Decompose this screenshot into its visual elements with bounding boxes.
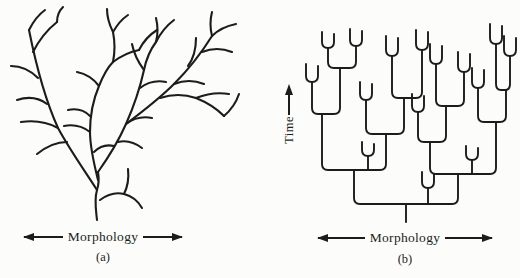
morphology-axis-b: Morphology (318, 231, 492, 245)
tree-a-drawing (5, 2, 255, 228)
time-axis-label: Time (282, 116, 297, 144)
arrowhead-right-icon (482, 234, 493, 242)
axis-line-right (143, 236, 182, 238)
time-axis: Time (278, 84, 300, 154)
morphology-axis-label-b: Morphology (365, 231, 446, 245)
arrowhead-left-icon (23, 233, 34, 241)
arrowhead-right-icon (172, 233, 183, 241)
panel-b-caption: (b) (318, 252, 492, 267)
tree-b-drawing (300, 2, 518, 230)
arrowhead-left-icon (317, 234, 328, 242)
axis-line-left (24, 236, 63, 238)
axis-line-left (318, 237, 365, 239)
arrowhead-up-icon (285, 84, 293, 95)
axis-line-right (445, 237, 492, 239)
time-axis-line (288, 95, 290, 115)
morphology-axis-a: Morphology (24, 230, 182, 244)
morphology-axis-label-a: Morphology (63, 230, 144, 244)
panel-a-caption: (a) (24, 250, 182, 265)
